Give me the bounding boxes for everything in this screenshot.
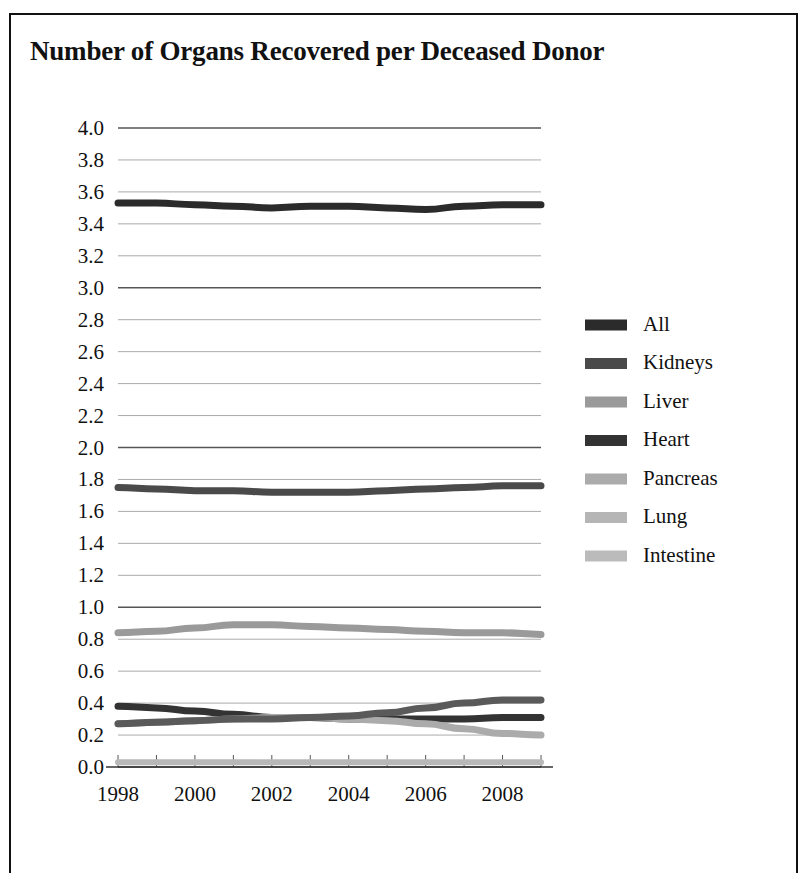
legend-swatch [585,358,627,369]
x-axis-tick-labels: 199820002002200420062008 [97,782,524,806]
x-axis-tick-label: 2008 [482,782,524,806]
y-axis-tick-label: 3.6 [78,180,104,204]
y-axis-tick-label: 3.4 [78,212,105,236]
y-axis-tick-label: 3.8 [78,148,104,172]
y-axis-tick-label: 3.0 [78,276,104,300]
y-axis-tick-label: 0.0 [78,755,104,779]
x-axis-tick-label: 2004 [328,782,371,806]
y-axis-tick-label: 2.0 [78,436,104,460]
y-axis-tick-label: 0.6 [78,659,104,683]
series-line-all [118,203,541,209]
legend-swatch [585,397,627,408]
chart-legend: AllKidneysLiverHeartPancreasLungIntestin… [585,312,718,567]
series-line-liver [118,625,541,635]
y-axis-tick-label: 1.4 [78,531,105,555]
legend-swatch [585,320,627,331]
legend-label-all: All [643,312,670,336]
legend-swatch [585,551,627,562]
y-axis-tick-label: 4.0 [78,116,104,140]
y-axis-tick-label: 2.6 [78,340,104,364]
y-axis-tick-label: 2.2 [78,404,104,428]
legend-label-lung: Lung [643,504,688,528]
legend-label-heart: Heart [643,427,690,451]
x-axis-tick-label: 2002 [251,782,293,806]
y-axis-tick-label: 0.8 [78,627,104,651]
y-axis-tick-label: 0.4 [78,691,105,715]
y-axis-tick-label: 3.2 [78,244,104,268]
y-axis-tick-label: 0.2 [78,723,104,747]
y-axis-tick-label: 1.8 [78,467,104,491]
series-line-kidneys [118,486,541,492]
legend-swatch [585,512,627,523]
legend-label-liver: Liver [643,389,688,413]
y-axis-tick-label: 2.8 [78,308,104,332]
y-axis-tick-labels: 0.00.20.40.60.81.01.21.41.61.82.02.22.42… [78,116,105,779]
legend-label-kidneys: Kidneys [643,350,713,374]
legend-label-pancreas: Pancreas [643,466,718,490]
legend-swatch [585,435,627,446]
legend-swatch [585,474,627,485]
y-axis-tick-label: 2.4 [78,372,105,396]
y-axis-tick-label: 1.0 [78,595,104,619]
y-axis-tick-label: 1.6 [78,499,104,523]
x-axis-tick-label: 2000 [174,782,216,806]
legend-label-intestine: Intestine [643,543,715,567]
gridlines [118,128,541,767]
x-axis-tick-label: 1998 [97,782,139,806]
data-series [118,203,541,762]
y-axis-tick-label: 1.2 [78,563,104,587]
x-axis-tick-label: 2006 [405,782,447,806]
